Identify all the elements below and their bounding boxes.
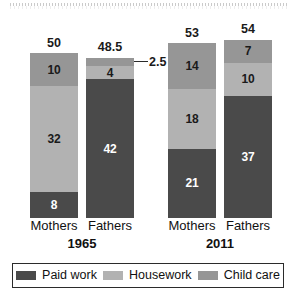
- legend-label: Child care: [224, 269, 280, 282]
- callout-leader-line: [134, 61, 148, 62]
- segment-value-label: 10: [48, 64, 61, 76]
- segment-value-label: 14: [186, 60, 199, 72]
- group-label-2011: 2011: [180, 237, 260, 250]
- stacked-bar-chart: 501032848.52.54422.5531418215471037 Moth…: [0, 0, 296, 297]
- bar-total-label: 48.5: [86, 41, 134, 54]
- legend-swatch-icon: [103, 271, 123, 280]
- segment-value-label: 8: [51, 199, 57, 211]
- stacked-bar: 2.5442: [86, 58, 134, 218]
- bar-segment-paid-work[interactable]: 37: [224, 96, 272, 218]
- segment-value-label: 7: [245, 45, 251, 57]
- bar-segment-housework[interactable]: 32: [30, 86, 78, 192]
- category-axis: MothersFathersMothersFathers19652011: [0, 219, 296, 259]
- legend-item-housework[interactable]: Housework: [103, 269, 192, 282]
- segment-value-label: 10: [242, 73, 255, 85]
- category-label-fathers-2011: Fathers: [218, 219, 278, 232]
- bar-segment-child-care[interactable]: 2.5: [86, 58, 134, 66]
- bar-segment-housework[interactable]: 18: [168, 89, 216, 148]
- stacked-bar: 10328: [30, 53, 78, 218]
- segment-value-label: 32: [48, 133, 61, 145]
- bar-segment-housework[interactable]: 4: [86, 66, 134, 79]
- callout-label-2-5: 2.5: [149, 56, 166, 69]
- bar-fathers-2011[interactable]: 5471037: [224, 40, 272, 218]
- category-label-fathers-1965: Fathers: [80, 219, 140, 232]
- legend-item-child-care[interactable]: Child care: [198, 269, 280, 282]
- legend-swatch-icon: [198, 271, 218, 280]
- segment-value-label: 21: [186, 177, 199, 189]
- legend-label: Housework: [129, 269, 192, 282]
- segment-value-label: 37: [242, 151, 255, 163]
- bar-segment-paid-work[interactable]: 8: [30, 192, 78, 218]
- bar-segment-paid-work[interactable]: 21: [168, 149, 216, 218]
- scan-artifact-line-secondary: [10, 6, 288, 9]
- bar-segment-housework[interactable]: 10: [224, 63, 272, 96]
- bar-segment-child-care[interactable]: 7: [224, 40, 272, 63]
- segment-value-label: 18: [186, 113, 199, 125]
- bar-total-label: 54: [224, 23, 272, 36]
- chart-legend: Paid workHouseworkChild care: [12, 263, 284, 288]
- category-label-mothers-1965: Mothers: [24, 219, 84, 232]
- stacked-bar: 141821: [168, 43, 216, 218]
- category-label-mothers-2011: Mothers: [162, 219, 222, 232]
- bar-segment-child-care[interactable]: 10: [30, 53, 78, 86]
- segment-value-label: 42: [104, 143, 117, 155]
- legend-label: Paid work: [42, 269, 97, 282]
- legend-item-paid-work[interactable]: Paid work: [16, 269, 97, 282]
- bar-fathers-1965[interactable]: 48.52.5442: [86, 58, 134, 218]
- bar-mothers-1965[interactable]: 5010328: [30, 53, 78, 218]
- bar-total-label: 53: [168, 27, 216, 40]
- segment-value-label: 4: [107, 67, 113, 79]
- stacked-bar: 71037: [224, 40, 272, 218]
- plot-area: 501032848.52.54422.5531418215471037: [0, 18, 296, 218]
- bar-mothers-2011[interactable]: 53141821: [168, 43, 216, 218]
- legend-swatch-icon: [16, 271, 36, 280]
- group-label-1965: 1965: [42, 237, 122, 250]
- bar-segment-child-care[interactable]: 14: [168, 43, 216, 89]
- bar-segment-paid-work[interactable]: 42: [86, 79, 134, 218]
- bar-total-label: 50: [30, 37, 78, 50]
